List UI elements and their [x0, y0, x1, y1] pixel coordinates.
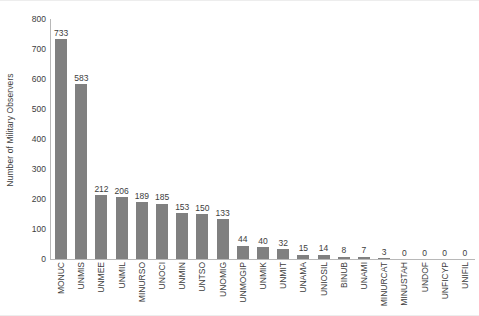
bar[interactable]	[338, 257, 350, 259]
bar-value-label: 3	[382, 248, 387, 257]
bar-value-label: 7	[362, 246, 367, 255]
x-axis-label-slot: UNOMIG	[213, 262, 233, 316]
bar[interactable]	[136, 202, 148, 259]
y-axis-title: Number of Military Observers	[2, 1, 18, 259]
y-axis-tick-600: 600	[32, 74, 46, 84]
bar-value-label: 189	[135, 192, 149, 201]
bar[interactable]	[297, 255, 309, 260]
x-axis-label-untso: UNTSO	[198, 262, 207, 292]
bar[interactable]	[116, 197, 128, 259]
bar-value-label: 14	[319, 244, 328, 253]
bar-value-label: 733	[54, 29, 68, 38]
bar-value-label: 0	[442, 249, 447, 258]
bar-slot: 15	[293, 19, 313, 259]
x-axis-label-slot: MINUSTAH	[394, 262, 414, 316]
bar-value-label: 212	[94, 185, 108, 194]
x-axis-label-slot: UNMIN	[172, 262, 192, 316]
x-axis-label-unficyp: UNFICYP	[440, 262, 449, 299]
x-axis-category-labels: MONUCUNMISUNMEEUNMILMINURSOUNOCIUNMINUNT…	[51, 262, 475, 316]
x-axis-label-binub: BINUB	[340, 262, 349, 288]
bar-value-label: 15	[299, 244, 308, 253]
bar-slot: 206	[112, 19, 132, 259]
x-axis-label-slot: UNMEE	[91, 262, 111, 316]
bar[interactable]	[75, 84, 87, 259]
bar-value-label: 0	[422, 249, 427, 258]
x-axis-label-slot: MINURCAT	[374, 262, 394, 316]
x-axis-label-slot: UNOCI	[152, 262, 172, 316]
bar-slot: 212	[91, 19, 111, 259]
bar[interactable]	[196, 214, 208, 259]
bar[interactable]	[156, 204, 168, 260]
bar[interactable]	[217, 219, 229, 259]
y-axis-tick-500: 500	[32, 104, 46, 114]
bar-slot: 44	[233, 19, 253, 259]
bar-slot: 0	[394, 19, 414, 259]
x-axis-label-slot: UNTSO	[192, 262, 212, 316]
x-axis-label-unomig: UNOMIG	[218, 262, 227, 297]
bar-slot: 7	[354, 19, 374, 259]
bar-value-label: 185	[155, 193, 169, 202]
x-axis-label-unmin: UNMIN	[178, 262, 187, 290]
x-axis-label-slot: UNMIL	[112, 262, 132, 316]
bar-slot: 3	[374, 19, 394, 259]
bar-slot: 8	[334, 19, 354, 259]
x-axis-label-unoci: UNOCI	[158, 262, 167, 289]
bar-slot: 583	[71, 19, 91, 259]
y-axis-tick-200: 200	[32, 194, 46, 204]
bar-value-label: 0	[463, 249, 468, 258]
bar-value-label: 133	[216, 209, 230, 218]
x-axis-label-minurso: MINURSO	[138, 262, 147, 302]
y-axis-tick-0: 0	[41, 254, 46, 264]
bar-value-label: 44	[238, 235, 247, 244]
x-axis-label-slot: UNMIK	[253, 262, 273, 316]
y-axis-tick-700: 700	[32, 44, 46, 54]
bar[interactable]	[378, 258, 390, 259]
bar[interactable]	[95, 195, 107, 259]
x-axis-label-slot: MINURSO	[132, 262, 152, 316]
bar[interactable]	[237, 246, 249, 259]
bar-value-label: 206	[115, 187, 129, 196]
bar-slot: 150	[192, 19, 212, 259]
x-axis-label-minurcat: MINURCAT	[380, 262, 389, 306]
x-axis-label-slot: UNDOF	[414, 262, 434, 316]
bar-value-label: 0	[402, 249, 407, 258]
x-axis-label-slot: UNMIT	[273, 262, 293, 316]
bar-value-label: 32	[278, 239, 287, 248]
x-axis-label-slot: UNFICYP	[435, 262, 455, 316]
bar[interactable]	[277, 249, 289, 259]
bar[interactable]	[257, 247, 269, 259]
bar[interactable]	[55, 39, 67, 259]
x-axis-label-unifil: UNIFIL	[461, 262, 470, 289]
y-axis-tick-800: 800	[32, 14, 46, 24]
y-axis-tick-labels: 0100200300400500600700800	[18, 19, 50, 259]
x-axis-label-slot: UNAMI	[354, 262, 374, 316]
x-axis-label-slot: UNMIS	[71, 262, 91, 316]
x-axis-label-unama: UNAMA	[299, 262, 308, 293]
x-axis-label-unami: UNAMI	[360, 262, 369, 289]
bar-value-label: 150	[195, 204, 209, 213]
x-axis-label-unmogip: UNMOGIP	[239, 262, 248, 303]
x-axis-label-undof: UNDOF	[420, 262, 429, 292]
bar-slot: 0	[414, 19, 434, 259]
bar-slot: 0	[455, 19, 475, 259]
x-axis-label-slot: UNIFIL	[455, 262, 475, 316]
x-axis-label-unmil: UNMIL	[117, 262, 126, 288]
bar-value-label: 40	[258, 237, 267, 246]
x-axis-label-monuc: MONUC	[57, 262, 66, 294]
bar-value-label: 153	[175, 203, 189, 212]
x-axis-label-unmit: UNMIT	[279, 262, 288, 289]
bar-slot: 185	[152, 19, 172, 259]
y-axis-tick-400: 400	[32, 134, 46, 144]
x-axis-label-slot: BINUB	[334, 262, 354, 316]
x-axis-label-unmee: UNMEE	[97, 262, 106, 293]
bar-slot: 14	[313, 19, 333, 259]
bar[interactable]	[358, 257, 370, 259]
bar[interactable]	[318, 255, 330, 259]
bar[interactable]	[176, 213, 188, 259]
plot-area: 7335832122061891851531501334440321514873…	[51, 19, 475, 259]
x-axis-label-unmis: UNMIS	[77, 262, 86, 289]
bar-slot: 153	[172, 19, 192, 259]
bar-chart-figure: Number of Military Observers 01002003004…	[0, 0, 479, 316]
y-axis-tick-100: 100	[32, 224, 46, 234]
x-axis-label-minustah: MINUSTAH	[400, 262, 409, 306]
